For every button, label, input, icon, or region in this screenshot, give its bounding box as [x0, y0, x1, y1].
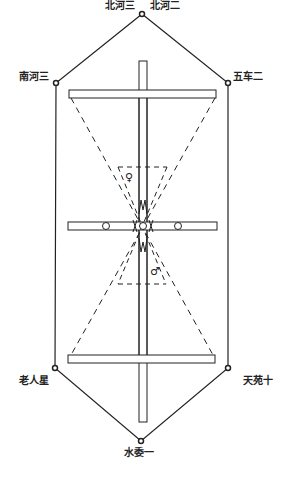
star-node-lower-left	[53, 366, 58, 371]
star-node-bottom	[139, 439, 144, 444]
female-symbol: ♀	[125, 172, 133, 184]
top-bar	[69, 90, 216, 98]
star-node-upper-right	[226, 81, 231, 86]
bottom-bar	[68, 355, 215, 363]
star-label-laoren-xing: 老人星	[19, 375, 49, 387]
star-node-lower-right	[226, 366, 231, 371]
star-label-beihe-san: 北河三	[105, 0, 135, 12]
marker-circle-right	[175, 223, 182, 230]
marker-circle-center	[140, 223, 147, 230]
star-label-shuiwei-yi: 水委一	[124, 447, 154, 459]
star-node-upper-left	[54, 81, 59, 86]
star-label-tianyuan-shi: 天苑十	[243, 375, 273, 387]
star-label-wuche-er: 五车二	[233, 71, 263, 83]
star-label-beihe-er: 北河二	[150, 0, 180, 12]
marker-circle-left	[103, 223, 110, 230]
vertical-bar	[139, 61, 147, 422]
star-node-top	[140, 12, 145, 17]
star-label-nanhe-san: 南河三	[19, 71, 49, 83]
male-symbol: ♂	[150, 266, 160, 278]
